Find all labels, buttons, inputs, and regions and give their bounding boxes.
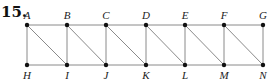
node-label-E: E bbox=[181, 9, 189, 21]
edge-D-L bbox=[146, 25, 185, 65]
edge-E-M bbox=[185, 25, 224, 65]
node-label-M: M bbox=[218, 69, 229, 81]
node-label-I: I bbox=[64, 69, 70, 81]
node-J bbox=[104, 63, 108, 67]
node-E bbox=[183, 23, 187, 27]
node-N bbox=[261, 63, 265, 67]
edge-B-J bbox=[67, 25, 106, 65]
node-G bbox=[261, 23, 265, 27]
node-label-J: J bbox=[104, 69, 110, 81]
node-label-D: D bbox=[141, 9, 150, 21]
graph-labels: ABCDEFGHIJKLMN bbox=[22, 9, 267, 81]
node-A bbox=[25, 23, 29, 27]
node-label-A: A bbox=[23, 9, 31, 21]
node-C bbox=[104, 23, 108, 27]
node-label-L: L bbox=[181, 69, 188, 81]
node-label-K: K bbox=[141, 69, 150, 81]
node-label-F: F bbox=[220, 9, 228, 21]
node-L bbox=[183, 63, 187, 67]
node-label-H: H bbox=[22, 69, 32, 81]
node-F bbox=[222, 23, 226, 27]
node-K bbox=[144, 63, 148, 67]
node-I bbox=[65, 63, 69, 67]
node-H bbox=[25, 63, 29, 67]
node-M bbox=[222, 63, 226, 67]
node-B bbox=[65, 23, 69, 27]
node-D bbox=[144, 23, 148, 27]
edge-F-N bbox=[224, 25, 263, 65]
node-label-G: G bbox=[259, 9, 267, 21]
edge-A-I bbox=[27, 25, 67, 65]
node-label-B: B bbox=[64, 9, 71, 21]
graph-nodes bbox=[25, 23, 265, 67]
graph-diagram: ABCDEFGHIJKLMN bbox=[0, 0, 270, 81]
node-label-C: C bbox=[102, 9, 110, 21]
edge-C-K bbox=[106, 25, 146, 65]
graph-edges bbox=[27, 25, 263, 65]
node-label-N: N bbox=[258, 69, 267, 81]
